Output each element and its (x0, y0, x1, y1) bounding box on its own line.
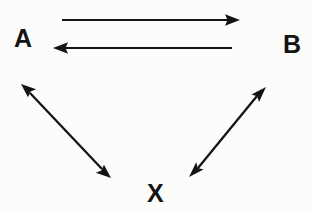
arrow-a-x-bidirectional (21, 84, 111, 178)
node-label-a: A (14, 26, 32, 51)
node-label-b: B (283, 32, 301, 57)
node-label-x: X (147, 181, 164, 206)
arrow-a-to-b (62, 14, 240, 26)
arrow-a-x-head-upper-left (21, 84, 36, 97)
arrow-b-to-a (53, 42, 232, 54)
arrow-a-x-shaft (30, 93, 102, 169)
arrow-a-x-head-lower-right (96, 165, 111, 178)
diagram-canvas: A B X (0, 0, 312, 210)
arrow-b-x-shaft (198, 96, 257, 168)
arrow-b-x-bidirectional (189, 87, 266, 177)
